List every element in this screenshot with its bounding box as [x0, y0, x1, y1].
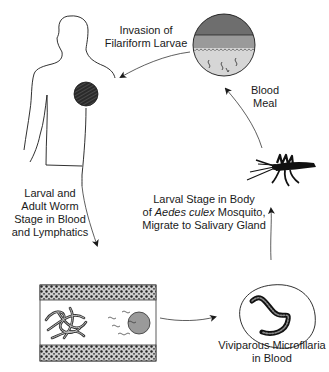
blood-cell-icon: [128, 312, 150, 334]
life-cycle-diagram: [0, 0, 329, 372]
label-mosquito-stage: Larval Stage in Body of Aedes culex Mosq…: [140, 193, 268, 232]
arrow-to-microfilaria: [160, 317, 215, 321]
label-microfilaria: Viviparous Microfilaria in Blood: [212, 339, 329, 365]
arrow-invasion: [121, 52, 190, 77]
label-invasion: Invasion of Filariform Larvae: [100, 24, 192, 50]
species-name: Aedes culex: [155, 206, 215, 218]
arrow-to-mosquito: [271, 209, 272, 260]
mosquito-icon: [247, 155, 316, 186]
blood-vessel-icon: [40, 285, 156, 361]
label-larval-adult: Larval and Adult Worm Stage in Blood and…: [10, 187, 90, 239]
skin-cross-section-icon: [190, 10, 260, 88]
label-blood-meal: Blood Meal: [240, 84, 290, 110]
lymph-node-icon: [74, 82, 98, 106]
